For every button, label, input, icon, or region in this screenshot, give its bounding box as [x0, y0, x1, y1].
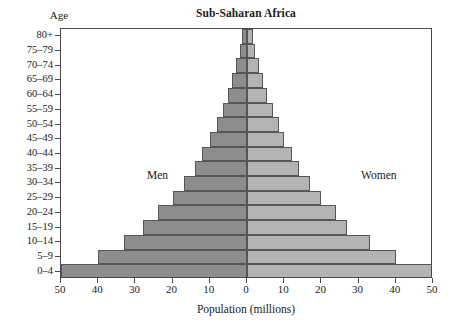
- bar-women-50-54: [247, 117, 279, 132]
- bar-women-45-49: [247, 132, 284, 147]
- chart-title: Sub-Saharan Africa: [60, 7, 432, 19]
- bar-women-35-39: [247, 161, 299, 176]
- bar-men-15-19: [143, 220, 247, 235]
- bar-women-20-24: [247, 205, 336, 220]
- bar-row: [61, 205, 431, 220]
- age-tick-label-75-79: 75–79: [27, 45, 53, 56]
- bar-women-10-14: [247, 235, 370, 250]
- bar-women-70-74: [247, 58, 259, 73]
- population-tick-label: 30: [352, 284, 363, 295]
- bar-men-60-64: [228, 88, 247, 103]
- age-tick-label-30-34: 30–34: [27, 177, 53, 188]
- age-tick-label-25-29: 25–29: [27, 192, 53, 203]
- bar-row: [61, 264, 431, 278]
- age-tick-label-15-19: 15–19: [27, 221, 53, 232]
- bar-men-0-4: [61, 264, 247, 278]
- bar-men-40-44: [202, 147, 247, 162]
- bar-women-15-19: [247, 220, 347, 235]
- bar-row: [61, 29, 431, 44]
- bar-men-65-69: [232, 73, 247, 88]
- plot-area: Men Women: [60, 28, 432, 278]
- x-axis-title: Population (millions): [60, 303, 432, 315]
- bar-women-0-4: [247, 264, 432, 278]
- bar-row: [61, 250, 431, 265]
- bar-row: [61, 117, 431, 132]
- age-axis: 80+75–7970–7465–6960–6455–5950–5445–4940…: [0, 28, 60, 278]
- bar-men-55-59: [223, 103, 247, 118]
- bar-row: [61, 88, 431, 103]
- bar-men-5-9: [98, 250, 247, 265]
- age-tick-label-65-69: 65–69: [27, 74, 53, 85]
- bar-row: [61, 147, 431, 162]
- population-pyramid-figure: Sub-Saharan Africa Age 80+75–7970–7465–6…: [0, 0, 460, 331]
- population-tick-label: 10: [278, 284, 289, 295]
- population-tick-label: 0: [243, 284, 249, 295]
- bar-women-25-29: [247, 191, 321, 206]
- bar-men-50-54: [217, 117, 247, 132]
- age-tick-label-80+: 80+: [37, 30, 53, 41]
- age-tick-label-10-14: 10–14: [27, 236, 53, 247]
- bar-row: [61, 132, 431, 147]
- population-tick-label: 10: [203, 284, 214, 295]
- population-tick-label: 40: [92, 284, 103, 295]
- bar-women-40-44: [247, 147, 292, 162]
- age-tick-label-5-9: 5–9: [37, 251, 53, 262]
- bar-men-45-49: [210, 132, 247, 147]
- bar-men-35-39: [195, 161, 247, 176]
- bar-row: [61, 220, 431, 235]
- bar-men-75-79: [240, 44, 247, 59]
- age-tick-label-45-49: 45–49: [27, 133, 53, 144]
- population-tick-label: 40: [389, 284, 400, 295]
- bar-men-10-14: [124, 235, 247, 250]
- age-tick-label-40-44: 40–44: [27, 148, 53, 159]
- bar-women-5-9: [247, 250, 396, 265]
- population-tick-label: 50: [427, 284, 438, 295]
- bar-men-25-29: [173, 191, 247, 206]
- bar-row: [61, 235, 431, 250]
- bar-women-75-79: [247, 44, 255, 59]
- bar-women-65-69: [247, 73, 263, 88]
- men-series-label: Men: [147, 169, 168, 181]
- bar-row: [61, 103, 431, 118]
- population-tick-label: 30: [129, 284, 140, 295]
- bar-row: [61, 73, 431, 88]
- age-tick-label-60-64: 60–64: [27, 89, 53, 100]
- age-tick-label-0-4: 0–4: [37, 265, 53, 276]
- bar-men-20-24: [158, 205, 247, 220]
- women-series-label: Women: [361, 169, 396, 181]
- age-tick-label-50-54: 50–54: [27, 118, 53, 129]
- population-tick-label: 20: [166, 284, 177, 295]
- age-tick-label-70-74: 70–74: [27, 60, 53, 71]
- age-tick-label-55-59: 55–59: [27, 104, 53, 115]
- age-tick-label-20-24: 20–24: [27, 207, 53, 218]
- bar-row: [61, 44, 431, 59]
- bar-women-30-34: [247, 176, 310, 191]
- population-tick-label: 20: [315, 284, 326, 295]
- population-tick-label: 50: [55, 284, 66, 295]
- bar-women-60-64: [247, 88, 267, 103]
- bar-women-80+: [247, 29, 253, 44]
- age-axis-caption: Age: [36, 9, 82, 21]
- age-tick-label-35-39: 35–39: [27, 162, 53, 173]
- bar-women-55-59: [247, 103, 273, 118]
- bar-row: [61, 58, 431, 73]
- bar-row: [61, 191, 431, 206]
- bar-men-70-74: [236, 58, 247, 73]
- bar-men-30-34: [184, 176, 247, 191]
